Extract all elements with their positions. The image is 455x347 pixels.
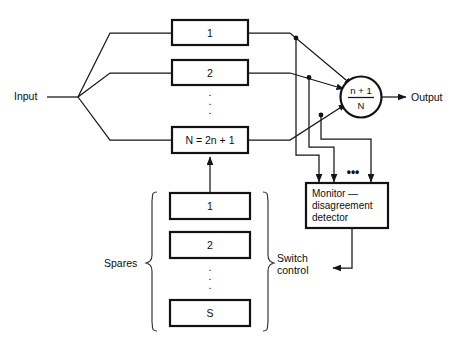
monitor-inputs-ellipsis: •••: [347, 165, 360, 179]
spares-label: Spares: [104, 257, 137, 269]
monitor-input-wire-1: [296, 38, 319, 182]
voter-denominator-label: N: [358, 100, 365, 111]
module-box-1-label: 1: [207, 27, 213, 39]
output-label: Output: [411, 91, 443, 103]
spare-box-1-label: 1: [207, 200, 213, 212]
module-ellipsis-dot-3: .: [208, 104, 211, 116]
input-branch-module-n: [78, 97, 172, 140]
module-n-to-voter-wire: [248, 104, 346, 140]
monitor-to-switch-control-wire: [333, 228, 352, 268]
module-1-to-voter-wire: [248, 33, 352, 85]
monitor-line-2: disagreement: [312, 200, 373, 211]
input-label: Input: [14, 90, 37, 102]
spares-ellipsis-dot-3: .: [208, 279, 211, 291]
switch-control-line-2: control: [277, 264, 309, 276]
input-branch-module-2: [78, 73, 172, 97]
spares-left-brace: [146, 192, 157, 331]
monitor-line-1: Monitor —: [312, 188, 358, 199]
spare-box-s-label: S: [206, 307, 213, 319]
block-diagram-canvas: Input 1 2 . . . N = 2n + 1 •••: [0, 0, 455, 347]
monitor-line-3: detector: [312, 212, 349, 223]
module-box-n-label: N = 2n + 1: [185, 134, 234, 146]
switch-control-line-1: Switch: [277, 252, 308, 264]
input-branch-module-1: [78, 33, 172, 97]
module-box-2-label: 2: [207, 67, 213, 79]
spares-right-brace: [263, 192, 274, 331]
redundancy-block-diagram: Input 1 2 . . . N = 2n + 1 •••: [0, 0, 455, 347]
voter-numerator-label: n + 1: [350, 85, 371, 96]
spare-box-2-label: 2: [207, 239, 213, 251]
